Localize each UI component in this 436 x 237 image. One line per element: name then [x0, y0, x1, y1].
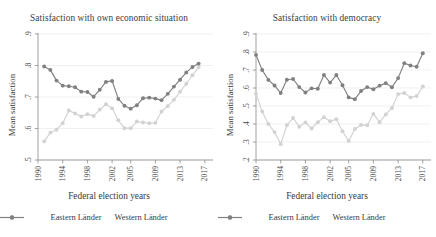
series-data-point — [191, 65, 195, 69]
series-data-point — [347, 139, 351, 143]
series-data-point — [178, 78, 182, 82]
series-data-point — [378, 84, 382, 88]
series-data-point — [98, 88, 102, 92]
legend-item-eastern-lander[interactable]: Eastern Länder — [269, 214, 320, 222]
series-data-point — [79, 90, 83, 94]
series-data-point — [61, 121, 65, 125]
series-data-point — [197, 65, 201, 69]
series-data-point — [116, 118, 120, 122]
series-data-point — [303, 91, 307, 95]
series-data-point — [384, 81, 388, 85]
series-data-point — [322, 73, 326, 77]
series-data-point — [79, 115, 83, 119]
y-axis-tick-label: .7 — [24, 94, 33, 100]
series-data-point — [316, 120, 320, 124]
series-data-point — [61, 84, 65, 88]
y-axis-tick-label: .8 — [24, 62, 33, 68]
series-data-point — [197, 62, 201, 66]
x-axis-tick-label: 1998 — [83, 166, 92, 181]
series-data-point — [123, 126, 127, 130]
series-data-point — [42, 64, 46, 68]
series-data-point — [73, 85, 77, 89]
series-data-point — [92, 95, 96, 99]
y-axis-tick-label: .5 — [242, 103, 251, 109]
series-data-point — [141, 121, 145, 125]
x-axis-tick-label: 1994 — [58, 166, 67, 181]
series-data-point — [104, 102, 108, 106]
x-axis-tick-label: 2002 — [326, 166, 335, 181]
chart-plot-area: .5.6.7.8.9199019941998200220052009201320… — [0, 0, 218, 237]
line-marker-icon — [218, 214, 242, 221]
chart-legend: Eastern Länder Western Länder — [218, 214, 436, 222]
x-axis-tick-label: 2013 — [176, 166, 185, 181]
series-data-point — [129, 126, 133, 130]
series-data-point — [365, 85, 369, 89]
legend-label: Eastern Länder — [51, 214, 102, 222]
x-axis-tick-label: 2005 — [344, 166, 353, 181]
series-data-point — [353, 97, 357, 101]
series-data-point — [390, 106, 394, 110]
x-axis-tick-label: 2009 — [151, 166, 160, 181]
legend-item-eastern-lander[interactable]: Eastern Länder — [51, 214, 102, 222]
series-data-point — [129, 107, 133, 111]
series-data-point — [254, 53, 258, 57]
chart-panel-democracy: Satisfaction with democracy Mean satisfa… — [218, 0, 436, 237]
series-data-point — [297, 125, 301, 129]
series-data-point — [166, 104, 170, 108]
series-data-point — [371, 112, 375, 116]
y-axis-tick-label: .9 — [24, 31, 33, 37]
series-data-point — [359, 89, 363, 93]
series-data-point — [421, 51, 425, 55]
chart-panel-economic-situation: Satisfaction with own economic situation… — [0, 0, 218, 237]
series-data-point — [260, 68, 264, 72]
series-data-point — [322, 115, 326, 119]
y-axis-tick-label: .5 — [24, 157, 33, 163]
series-data-point — [166, 92, 170, 96]
legend-item-western-lander[interactable]: Western Länder — [332, 214, 385, 222]
series-data-point — [55, 128, 59, 132]
chart-plot-area: .2.3.4.5.6.7.8.9199019941998200220052009… — [218, 0, 436, 237]
legend-item-western-lander[interactable]: Western Länder — [114, 214, 167, 222]
series-data-point — [55, 79, 59, 83]
x-axis-tick-label: 2017 — [418, 166, 427, 181]
series-data-point — [110, 106, 114, 110]
series-data-point — [291, 116, 295, 120]
series-data-point — [297, 85, 301, 89]
series-data-point — [98, 108, 102, 112]
series-data-point — [421, 85, 425, 89]
series-data-point — [147, 121, 151, 125]
series-data-point — [285, 123, 289, 127]
series-data-point — [48, 68, 52, 72]
series-data-point — [92, 114, 96, 118]
x-axis-label: Federal election years — [0, 191, 218, 201]
y-axis-tick-label: .3 — [242, 139, 251, 145]
series-data-point — [135, 103, 139, 107]
series-data-point — [291, 77, 295, 81]
series-data-point — [153, 97, 157, 101]
series-data-point — [415, 65, 419, 69]
x-axis-tick-label: 2005 — [126, 166, 135, 181]
series-data-point — [116, 97, 120, 101]
x-axis-tick-label: 1994 — [276, 166, 285, 181]
series-data-point — [378, 120, 382, 124]
x-axis-tick-label: 2002 — [108, 166, 117, 181]
series-data-point — [409, 95, 413, 99]
legend-label: Western Länder — [114, 214, 167, 222]
series-data-point — [316, 87, 320, 91]
y-axis-tick-label: .6 — [242, 85, 251, 91]
chart-legend: Eastern Länder Western Länder — [0, 214, 218, 222]
series-data-point — [402, 91, 406, 95]
series-data-point — [123, 104, 127, 108]
series-data-point — [310, 86, 314, 90]
x-axis-tick-label: 1998 — [301, 166, 310, 181]
series-data-point — [303, 120, 307, 124]
y-axis-tick-label: .2 — [242, 157, 251, 163]
series-data-point — [110, 79, 114, 83]
series-data-point — [279, 142, 283, 146]
series-data-point — [347, 95, 351, 99]
series-data-point — [172, 98, 176, 102]
series-data-point — [285, 78, 289, 82]
series-data-point — [341, 129, 345, 133]
y-axis-tick-label: .4 — [242, 121, 251, 127]
series-data-point — [365, 123, 369, 127]
